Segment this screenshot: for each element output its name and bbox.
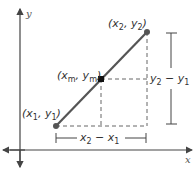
- label-midpoint: (xm, ym): [57, 69, 101, 84]
- label-x2-y2: (x2, y2): [108, 17, 147, 32]
- x-axis-label: x: [185, 154, 191, 165]
- midpoint-diagram: y x (x1, y1) (xm, ym) (x2, y2) x2 − x1: [0, 0, 196, 174]
- label-x1-y1: (x1, y1): [22, 107, 61, 122]
- label-x2-minus-x1: x2 − x1: [79, 131, 119, 146]
- label-y2-minus-y1: y2 − y1: [149, 72, 189, 87]
- y-axis-label: y: [25, 8, 32, 19]
- point-x1-y1: [53, 123, 59, 129]
